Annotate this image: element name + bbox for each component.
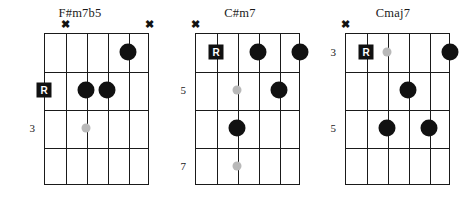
root-note-marker: R	[37, 83, 52, 98]
finger-position-dot	[250, 44, 267, 61]
fret-line	[346, 148, 449, 149]
fret-number-label: 5	[181, 84, 187, 96]
fret-line	[196, 110, 299, 111]
fret-line	[346, 110, 449, 111]
chord-title: Cmaj7	[313, 6, 473, 21]
chord-title: C#m7	[160, 6, 320, 21]
fret-number-label: 3	[331, 46, 337, 58]
finger-position-dot	[400, 82, 417, 99]
finger-position-dot	[78, 82, 95, 99]
chord-diagram-2: C#m7✖57R	[160, 0, 320, 202]
string-line	[87, 34, 88, 184]
finger-position-dot	[120, 44, 137, 61]
mute-string-icon: ✖	[191, 19, 200, 30]
mute-string-icon: ✖	[341, 19, 350, 30]
string-line	[280, 34, 281, 184]
mute-string-icon: ✖	[145, 19, 154, 30]
fret-number-label: 5	[331, 122, 337, 134]
chord-title: F#m7b5	[0, 6, 160, 21]
root-note-marker: R	[359, 45, 374, 60]
mute-string-icon: ✖	[61, 19, 70, 30]
fret-line	[45, 72, 148, 73]
fret-line	[196, 72, 299, 73]
fret-line	[45, 148, 148, 149]
chord-diagram-3: Cmaj7✖35R	[313, 0, 473, 202]
string-line	[66, 34, 67, 184]
string-line	[108, 34, 109, 184]
finger-position-dot	[99, 82, 116, 99]
fret-number-label: 7	[181, 160, 187, 172]
optional-note-dot	[383, 48, 392, 57]
fret-line	[196, 148, 299, 149]
optional-note-dot	[233, 162, 242, 171]
string-line	[409, 34, 410, 184]
optional-note-dot	[82, 124, 91, 133]
chord-diagram-1: F#m7b5✖✖3R	[0, 0, 160, 202]
finger-position-dot	[229, 120, 246, 137]
fret-line	[45, 110, 148, 111]
finger-position-dot	[271, 82, 288, 99]
finger-position-dot	[421, 120, 438, 137]
string-line	[388, 34, 389, 184]
fret-line	[346, 72, 449, 73]
chord-sheet: F#m7b5✖✖3RC#m7✖57RCmaj7✖35R	[0, 0, 473, 202]
finger-position-dot	[379, 120, 396, 137]
optional-note-dot	[233, 86, 242, 95]
root-note-marker: R	[209, 45, 224, 60]
finger-position-dot	[292, 44, 309, 61]
string-line	[430, 34, 431, 184]
fret-number-label: 3	[30, 122, 36, 134]
finger-position-dot	[442, 44, 459, 61]
